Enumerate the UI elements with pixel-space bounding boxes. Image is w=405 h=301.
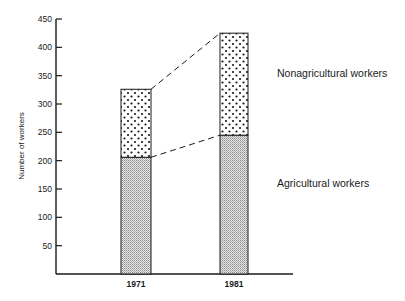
bar-1971 (121, 89, 151, 274)
legend-agricultural: Agricultural workers (277, 177, 369, 189)
y-tick-label: 450 (38, 14, 52, 24)
y-tick-label: 150 (38, 184, 52, 194)
y-tick-label: 100 (38, 212, 52, 222)
y-tick-label: 300 (38, 99, 52, 109)
y-tick-label: 350 (38, 71, 52, 81)
x-label-1981: 1981 (225, 279, 244, 289)
x-label-1971: 1971 (127, 279, 146, 289)
y-tick-label: 50 (43, 241, 53, 251)
bars (121, 33, 248, 274)
y-axis: 50100150200250300350400450 (38, 14, 62, 274)
y-axis-title: Number of workers (17, 112, 26, 180)
bar-segment-agricultural (220, 135, 248, 274)
stacked-bar-chart: 50100150200250300350400450 Number of wor… (0, 0, 405, 301)
bar-segment-agricultural (121, 157, 151, 274)
connector-lines (151, 33, 220, 157)
bar-segment-nonagricultural (220, 33, 248, 135)
y-tick-label: 400 (38, 42, 52, 52)
bar-segment-nonagricultural (121, 89, 151, 157)
y-tick-label: 250 (38, 127, 52, 137)
y-tick-label: 200 (38, 156, 52, 166)
connector-agricultural (151, 135, 220, 157)
bar-1981 (220, 33, 248, 274)
legend-nonagricultural: Nonagricultural workers (277, 67, 387, 79)
connector-total (151, 33, 220, 89)
